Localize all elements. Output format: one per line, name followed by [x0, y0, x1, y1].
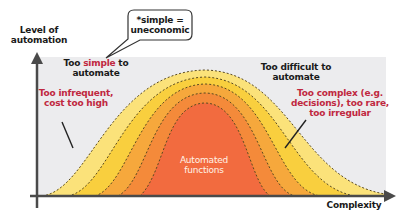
center-label-line1: Automated — [170, 155, 238, 165]
left-reason-line1: Too infrequent, — [38, 88, 114, 98]
right-heading: Too difficult to automate — [256, 62, 336, 82]
automation-complexity-diagram: Level of automation *simple = uneconomic… — [0, 0, 407, 220]
x-axis-arrow-icon — [384, 190, 396, 202]
x-axis-label: Complexity — [326, 200, 382, 210]
simple-highlight: simple — [83, 58, 115, 68]
left-reason: Too infrequent, cost too high — [38, 88, 114, 108]
callout-line1: *simple = — [128, 15, 192, 25]
callout-line2: uneconomic — [128, 25, 192, 35]
right-reason-line1: Too complex (e.g. — [290, 88, 390, 98]
left-heading-line2: automate — [56, 68, 136, 78]
center-label: Automated functions — [170, 155, 238, 175]
y-axis-label-line1: Level of — [10, 25, 68, 35]
right-heading-line1: Too difficult to — [256, 62, 336, 72]
left-heading: Too simple to automate — [56, 58, 136, 78]
left-heading-line1: Too simple to — [56, 58, 136, 68]
right-reason: Too complex (e.g. decisions), too rare, … — [290, 88, 390, 118]
right-heading-line2: automate — [256, 72, 336, 82]
y-axis-label: Level of automation — [10, 25, 68, 45]
callout-text: *simple = uneconomic — [128, 15, 192, 35]
right-reason-line2: decisions), too rare, — [290, 98, 390, 108]
y-axis-label-line2: automation — [10, 35, 68, 45]
right-reason-line3: too irregular — [290, 108, 390, 118]
center-label-line2: functions — [170, 165, 238, 175]
left-reason-line2: cost too high — [38, 98, 114, 108]
